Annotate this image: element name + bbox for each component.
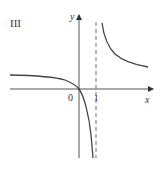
tick-label-1: 1: [94, 93, 99, 103]
origin-label: 0: [68, 92, 73, 103]
graph: III y x 0 1: [0, 0, 162, 169]
x-axis-label: x: [144, 94, 150, 105]
curve-left-branch: [10, 75, 93, 158]
panel-label: III: [10, 17, 21, 29]
y-axis-label: y: [69, 11, 75, 22]
curve-right-branch: [102, 23, 148, 67]
